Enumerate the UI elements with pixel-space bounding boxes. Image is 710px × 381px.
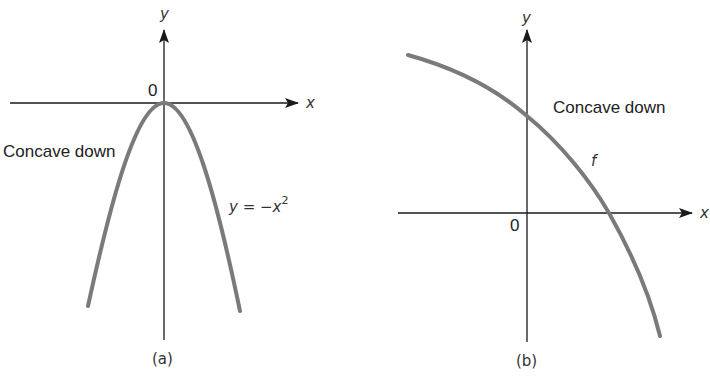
panel-b-origin-label: 0	[510, 216, 519, 235]
panel-b-caption: (b)	[516, 352, 537, 370]
panel-b: y x 0 Concave down f (b)	[398, 9, 709, 370]
panel-a-equation-exponent: 2	[281, 194, 288, 207]
panel-b-annotation: Concave down	[553, 98, 665, 117]
figure-canvas: y x 0 Concave down y = −x2 (a) y x 0 Con…	[0, 0, 710, 381]
panel-a-origin-label: 0	[148, 81, 157, 100]
panel-a-y-axis-label: y	[159, 5, 170, 23]
panel-a-caption: (a)	[152, 350, 173, 368]
panel-a-equation-base: y = −x	[228, 198, 282, 216]
panel-a-annotation: Concave down	[3, 142, 115, 161]
panel-a-x-axis-label: x	[305, 94, 315, 112]
panel-b-curve-label: f	[591, 152, 599, 170]
panel-b-y-axis-label: y	[521, 9, 532, 27]
panel-a-equation: y = −x2	[228, 194, 288, 216]
panel-b-x-axis-label: x	[699, 204, 709, 222]
panel-a: y x 0 Concave down y = −x2 (a)	[3, 5, 315, 368]
